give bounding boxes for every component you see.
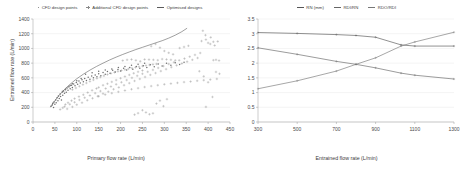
legend-label: RDO/RDI xyxy=(378,5,396,10)
x-tick-label: 300 xyxy=(160,126,169,132)
right-line-panel: RN (mm) RDI/RN RDO/RDI 00.511.522.533.53… xyxy=(232,0,461,172)
legend-label: Additional CFD design points xyxy=(92,5,148,10)
y-tick-label: 2.5 xyxy=(248,45,255,51)
line-marker-icon xyxy=(368,7,375,8)
legend-label: CFD design points xyxy=(42,5,78,10)
x-tick-label: 1100 xyxy=(409,126,420,132)
line-marker-icon xyxy=(297,7,304,8)
legend-item-optimised-designs: Optimised designs xyxy=(157,5,202,10)
legend-item-additional-cfd-design-points: Additional CFD design points xyxy=(86,5,148,10)
series-line-2 xyxy=(258,32,454,89)
y-tick-label: 1200 xyxy=(18,31,29,37)
plus-marker-icon xyxy=(86,6,89,9)
line-marker-icon xyxy=(157,7,164,8)
x-tick-label: 100 xyxy=(73,126,82,132)
legend-label: Optimised designs xyxy=(167,5,203,10)
y-tick-label: 400 xyxy=(21,89,30,95)
dot-marker-icon xyxy=(38,7,40,9)
y-tick-label: 1400 xyxy=(18,16,29,22)
right-plot-area: 00.511.522.533.530050070090011001300 xyxy=(232,14,461,142)
y-tick-label: 0 xyxy=(27,119,30,125)
legend-item-cfd-design-points: CFD design points xyxy=(38,5,78,10)
right-legend: RN (mm) RDI/RN RDO/RDI xyxy=(232,5,461,10)
y-tick-label: 0.5 xyxy=(248,104,255,110)
legend-item-rn: RN (mm) xyxy=(297,5,324,10)
y-tick-label: 800 xyxy=(21,60,30,66)
y-tick-label: 600 xyxy=(21,75,30,81)
series-additional-cfd-design-points xyxy=(59,30,221,116)
x-tick-label: 1300 xyxy=(448,126,459,132)
y-tick-label: 1 xyxy=(252,89,255,95)
x-tick-label: 400 xyxy=(204,126,213,132)
x-tick-label: 500 xyxy=(293,126,302,132)
y-tick-label: 1000 xyxy=(18,45,29,51)
x-tick-label: 350 xyxy=(182,126,191,132)
legend-label: RDI/RN xyxy=(343,5,358,10)
figure-container: CFD design points Additional CFD design … xyxy=(0,0,461,172)
left-xaxis-title: Primary flow rate (L/min) xyxy=(0,155,232,161)
x-tick-label: 150 xyxy=(94,126,103,132)
line-marker-icon xyxy=(334,7,341,8)
left-scatter-panel: CFD design points Additional CFD design … xyxy=(0,0,232,172)
legend-item-rdi-rn: RDI/RN xyxy=(334,5,358,10)
right-xaxis-title: Entrained flow rate (L/min) xyxy=(232,155,461,161)
y-tick-label: 1.5 xyxy=(248,75,255,81)
x-tick-label: 700 xyxy=(332,126,341,132)
series-cfd-design-points xyxy=(50,62,185,109)
left-yaxis-title: Entrained flow rate (L/min) xyxy=(9,10,15,130)
x-tick-label: 200 xyxy=(116,126,125,132)
legend-label: RN (mm) xyxy=(306,5,324,10)
x-tick-label: 0 xyxy=(32,126,35,132)
y-tick-label: 3.5 xyxy=(248,16,255,22)
y-tick-label: 0 xyxy=(252,119,255,125)
legend-item-rdo-rdi: RDO/RDI xyxy=(368,5,396,10)
y-tick-label: 200 xyxy=(21,104,30,110)
left-legend: CFD design points Additional CFD design … xyxy=(8,5,232,10)
x-tick-label: 900 xyxy=(371,126,380,132)
left-plot-area: 0200400600800100012001400050100150200250… xyxy=(0,14,232,142)
x-tick-label: 300 xyxy=(254,126,263,132)
x-tick-label: 50 xyxy=(52,126,58,132)
y-tick-label: 2 xyxy=(252,60,255,66)
y-tick-label: 3 xyxy=(252,31,255,37)
x-tick-label: 250 xyxy=(138,126,147,132)
